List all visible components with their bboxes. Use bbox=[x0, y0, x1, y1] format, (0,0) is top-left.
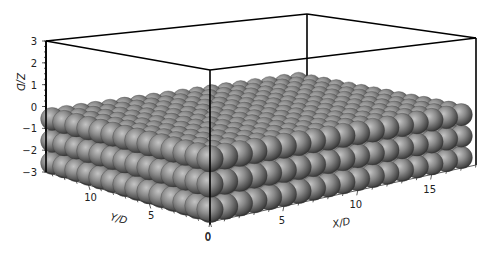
box-edge bbox=[46, 14, 307, 41]
z-tick-label: 0 bbox=[31, 102, 37, 113]
z-tick-label: 1 bbox=[31, 80, 37, 91]
x-tick-label: 15 bbox=[423, 184, 436, 195]
y-axis-label: Y/D bbox=[109, 211, 129, 226]
x-tick-label: 5 bbox=[279, 215, 285, 226]
z-tick-label: −1 bbox=[22, 123, 37, 134]
sphere-packing-3d-plot: 3210−1−2−3510051015 0 Z/D Y/D X/D bbox=[0, 0, 501, 253]
z-tick-label: −3 bbox=[22, 167, 37, 178]
z-tick-label: 3 bbox=[31, 36, 37, 47]
z-tick-label: −2 bbox=[22, 145, 37, 156]
x-tick bbox=[357, 190, 358, 195]
x-tick bbox=[431, 175, 432, 180]
x-axis-label: X/D bbox=[330, 215, 351, 230]
origin-tick-label: 0 bbox=[205, 232, 211, 243]
z-axis-label: Z/D bbox=[15, 72, 26, 91]
box-edge bbox=[210, 38, 476, 70]
y-tick-label: 5 bbox=[148, 210, 154, 221]
spheres bbox=[41, 72, 473, 222]
x-tick-label: 10 bbox=[349, 199, 362, 210]
y-tick-label: 10 bbox=[84, 192, 97, 203]
box-edge bbox=[46, 41, 210, 70]
z-tick-label: 2 bbox=[31, 58, 37, 69]
box-edge bbox=[307, 14, 476, 38]
